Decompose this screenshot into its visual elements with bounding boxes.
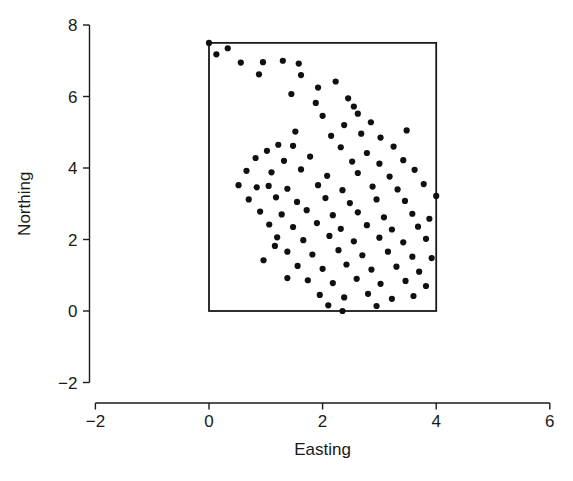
scatter-point — [326, 233, 332, 239]
scatter-point — [309, 251, 315, 257]
scatter-point — [333, 78, 339, 84]
scatter-point — [339, 308, 345, 314]
northing-axis: −202468 — [58, 16, 89, 393]
scatter-point — [290, 224, 296, 230]
scatter-point — [307, 153, 313, 159]
scatter-point — [322, 195, 328, 201]
scatter-point — [315, 182, 321, 188]
scatter-point — [343, 261, 349, 267]
scatter-point — [279, 211, 285, 217]
scatter-point — [330, 212, 336, 218]
scatter-point — [298, 166, 304, 172]
scatter-point — [410, 293, 416, 299]
scatter-point — [313, 100, 319, 106]
easting-axis-title: Easting — [294, 440, 351, 459]
scatter-point — [402, 278, 408, 284]
scatter-point — [243, 168, 249, 174]
northing-tick-label: 4 — [68, 159, 77, 178]
scatter-point — [355, 209, 361, 215]
scatter-point — [246, 196, 252, 202]
scatter-point — [393, 264, 399, 270]
scatter-point — [385, 249, 391, 255]
scatter-point — [274, 234, 280, 240]
scatter-point — [389, 226, 395, 232]
scatter-point — [426, 216, 432, 222]
scatter-point — [381, 214, 387, 220]
scatter-point — [320, 113, 326, 119]
scatter-point — [368, 266, 374, 272]
scatter-point — [341, 294, 347, 300]
scatter-point — [358, 131, 364, 137]
scatter-point — [377, 135, 383, 141]
easting-tick-label: 4 — [431, 412, 440, 431]
scatter-point — [391, 143, 397, 149]
scatter-point — [252, 155, 258, 161]
scatter-point — [351, 103, 357, 109]
scatter-point — [345, 95, 351, 101]
scatter-point — [404, 127, 410, 133]
scatter-point — [433, 193, 439, 199]
scatter-point — [266, 183, 272, 189]
scatter-point — [213, 51, 219, 57]
scatter-point — [409, 211, 415, 217]
northing-tick-label: 6 — [68, 88, 77, 107]
scatter-point — [238, 59, 244, 65]
scatter-point — [260, 257, 266, 263]
scatter-point — [296, 61, 302, 67]
scatter-point — [400, 157, 406, 163]
scatter-point — [256, 71, 262, 77]
scatter-point — [268, 169, 274, 175]
scatter-point-group — [206, 40, 439, 314]
scatter-point — [294, 199, 300, 205]
easting-tick-label: 2 — [318, 412, 327, 431]
northing-tick-label: 0 — [68, 302, 77, 321]
scatter-point — [364, 222, 370, 228]
scatter-point — [225, 45, 231, 51]
scatter-point — [288, 91, 294, 97]
scatter-point — [351, 238, 357, 244]
easting-tick-label: 0 — [204, 412, 213, 431]
scatter-point — [341, 122, 347, 128]
scatter-point — [423, 283, 429, 289]
scatter-point — [298, 72, 304, 78]
scatter-point — [409, 254, 415, 260]
scatter-point — [304, 207, 310, 213]
scatter-point — [266, 221, 272, 227]
scatter-point — [235, 182, 241, 188]
scatter-point — [257, 209, 263, 215]
scatter-point — [400, 239, 406, 245]
northing-axis-title: Northing — [15, 172, 34, 236]
northing-tick-label: 2 — [68, 231, 77, 250]
scatter-point — [317, 292, 323, 298]
scatter-point — [272, 243, 278, 249]
scatter-point — [415, 224, 421, 230]
scatter-point — [330, 280, 336, 286]
scatter-point — [359, 252, 365, 258]
scatter-point — [416, 269, 422, 275]
scatter-point — [365, 291, 371, 297]
scatter-point — [305, 277, 311, 283]
scatter-point — [412, 167, 418, 173]
scatter-point — [376, 235, 382, 241]
scatter-point — [387, 173, 393, 179]
scatter-point — [275, 142, 281, 148]
scatter-point — [284, 275, 290, 281]
scatter-point — [295, 263, 301, 269]
scatter-point — [423, 236, 429, 242]
scatter-point — [320, 266, 326, 272]
scatter-point — [354, 276, 360, 282]
scatter-point — [368, 119, 374, 125]
scatter-point — [394, 186, 400, 192]
scatter-point — [290, 143, 296, 149]
scatter-point — [254, 184, 260, 190]
scatter-point — [325, 302, 331, 308]
plot-canvas: −202468−20246EastingNorthing — [0, 0, 573, 481]
scatter-point — [377, 281, 383, 287]
scatter-point — [355, 170, 361, 176]
scatter-point — [264, 148, 270, 154]
scatter-point — [324, 173, 330, 179]
scatter-point — [339, 187, 345, 193]
easting-tick-label: 6 — [545, 412, 554, 431]
scatter-point — [389, 296, 395, 302]
scatter-point — [373, 196, 379, 202]
